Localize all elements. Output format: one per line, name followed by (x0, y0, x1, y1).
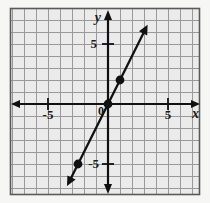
data-point (104, 100, 113, 109)
graph-canvas: -5 5 5 -5 0 y x (0, 0, 210, 203)
y-tick-label-5: 5 (91, 36, 98, 51)
x-axis-label: x (191, 106, 199, 121)
origin-label: 0 (98, 104, 104, 118)
x-tick-label-minus5: -5 (43, 107, 54, 122)
y-axis-label: y (93, 10, 102, 25)
data-point (74, 160, 83, 169)
coordinate-plane-figure: -5 5 5 -5 0 y x (0, 0, 210, 203)
x-tick-label-5: 5 (165, 107, 172, 122)
y-tick-label-minus5: -5 (88, 156, 99, 171)
data-point (116, 76, 125, 85)
